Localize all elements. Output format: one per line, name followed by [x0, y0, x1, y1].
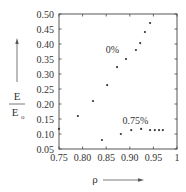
y-axis-title: E E o [9, 38, 25, 121]
data-point [101, 139, 103, 141]
series-label: 0.75% [123, 115, 149, 126]
data-point [106, 84, 108, 86]
data-point [92, 100, 94, 102]
data-point [144, 31, 146, 33]
data-point [120, 133, 122, 135]
x-tick-label: 0.80 [74, 152, 92, 163]
series-labels: 0%0.75% [106, 44, 149, 126]
x-tick-label: 0.95 [145, 152, 163, 163]
data-point [139, 42, 141, 44]
data-point [130, 129, 132, 131]
y-tick-label: 0.20 [37, 99, 55, 110]
data-point [154, 129, 156, 131]
y-tick-label: 0.05 [37, 144, 55, 155]
y-axis-subscript: o [21, 113, 25, 121]
data-point [149, 22, 151, 24]
x-tick-label: 0.85 [97, 152, 115, 163]
y-arrowhead-icon [15, 38, 18, 44]
x-tick-label: 1 [175, 152, 180, 163]
plot-frame [59, 14, 177, 149]
series-label: 0% [106, 44, 119, 55]
data-point [140, 128, 142, 130]
data-point [149, 129, 151, 131]
y-tick-label: 0.35 [37, 54, 55, 65]
data-point [116, 66, 118, 68]
data-point [135, 49, 137, 51]
y-tick-label: 0.45 [37, 24, 55, 35]
data-point [162, 129, 164, 131]
chart: E E o 0.750.800.850.900.9510.050.100.150… [0, 0, 186, 192]
data-point [125, 58, 127, 60]
y-tick-label: 0.25 [37, 84, 55, 95]
y-tick-label: 0.30 [37, 69, 55, 80]
y-tick-label: 0.10 [37, 129, 55, 140]
x-arrowhead-icon [138, 178, 144, 181]
data-point [158, 129, 160, 131]
x-axis-title: ρ [92, 173, 144, 185]
y-tick-label: 0.50 [37, 9, 55, 20]
y-tick-label: 0.40 [37, 39, 55, 50]
data-point [58, 128, 60, 130]
data-point [77, 115, 79, 117]
y-tick-label: 0.15 [37, 114, 55, 125]
y-axis-numerator: E [14, 90, 21, 102]
x-tick-label: 0.90 [121, 152, 139, 163]
x-axis-label: ρ [92, 173, 98, 185]
y-axis-denominator: E [12, 106, 19, 118]
